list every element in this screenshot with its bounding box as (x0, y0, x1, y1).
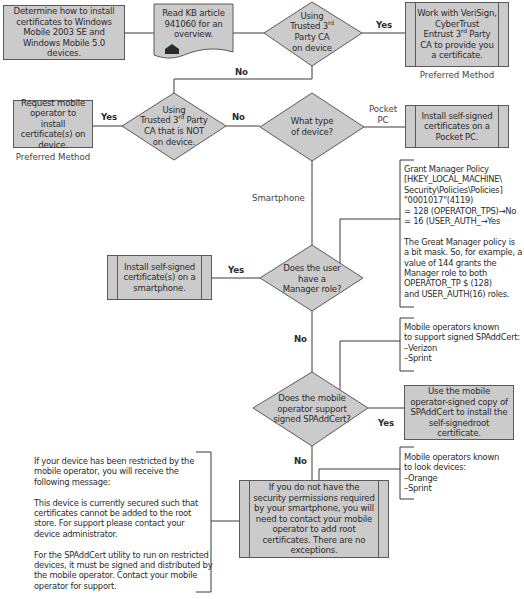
annotation-operators-lock-devices: Mobile operators known to look devices: … (404, 452, 519, 494)
use-spaddcert-text: Use the mobile operator-signed copy of S… (408, 386, 510, 439)
edge-label-smartphone: Smartphone (252, 193, 305, 204)
edge-label-manager-no: No (294, 334, 307, 344)
connector-final-annotation (319, 469, 400, 480)
use-spaddcert-box: Use the mobile operator-signed copy of S… (404, 385, 514, 440)
edge-label-spaddcert-yes: Yes (378, 418, 394, 428)
connector-spaddcert-annotation (340, 341, 400, 390)
edge-label-not-on-device-yes: Yes (101, 112, 117, 122)
install-smartphone-text: Install self-signed certificate(s) on a … (111, 262, 208, 294)
decision-not-on-device-text: Using Trusted 3rd Party CA that is NOT o… (136, 102, 212, 150)
decision-trusted-ca-text: Using Trusted 3rd Party CA on device (282, 8, 342, 56)
edge-label-pocket-pc: Pocket PC (366, 104, 400, 125)
install-smartphone-box: Install self-signed certificate(s) on a … (107, 255, 212, 300)
request-operator-caption: Preferred Method (8, 152, 98, 162)
annotation-operators-support-spaddcert: Mobile operators known to support signed… (404, 322, 524, 364)
annotation-restricted-device-message: If your device has been restricted by th… (34, 456, 214, 591)
edge-label-not-on-device-no: No (232, 112, 245, 122)
install-pocket-pc-box: Install self-signed certificates on a Po… (405, 105, 509, 148)
decision-spaddcert-text: Does the mobile operator support signed … (272, 388, 352, 430)
work-with-ca-caption: Preferred Method (405, 70, 509, 80)
request-operator-text: Request mobile operator to install certi… (17, 98, 89, 151)
annotation-grant-manager-policy: Grant Manager Policy [HKEY_LOCAL_MACHINE… (404, 164, 524, 299)
work-with-ca-box: Work with VeriSign, CyberTrust Entrust 3… (405, 2, 509, 67)
connector-manager-annotation (340, 219, 400, 263)
edge-label-spaddcert-no: No (294, 456, 307, 466)
edge-label-trusted-ca-no: No (235, 67, 248, 77)
request-operator-box: Request mobile operator to install certi… (13, 100, 93, 148)
edge-label-manager-yes: Yes (228, 265, 244, 275)
decision-manager-role-text: Does the user have a Manager role? (280, 262, 344, 296)
contact-operator-box: If you do not have the security permissi… (239, 480, 389, 558)
start-process-text: Determine how to install certificates to… (7, 6, 121, 59)
start-process-box: Determine how to install certificates to… (3, 5, 125, 60)
contact-operator-text: If you do not have the security permissi… (243, 482, 385, 556)
kb-article-text: Read KB article 941060 for an overview. (160, 8, 227, 40)
edge-label-trusted-ca-yes: Yes (376, 20, 392, 30)
decision-device-type-text: What type of device? (286, 112, 338, 142)
install-pocket-pc-text: Install self-signed certificates on a Po… (409, 111, 505, 143)
